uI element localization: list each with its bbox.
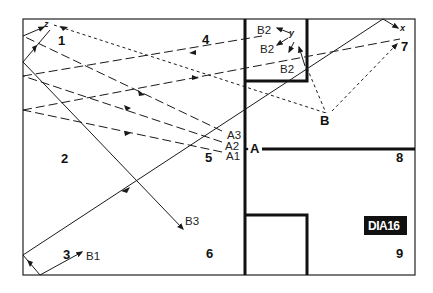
axis-y: y [288,28,295,38]
zone-5: 5 [205,150,212,165]
zone-1: 1 [58,33,65,48]
label-b2-mid: B2 [260,43,274,55]
label-b2-top: B2 [257,24,271,36]
label-b3: B3 [185,215,199,227]
ray-y-up [299,47,305,66]
ray-corner-to-b1 [23,255,40,275]
label-a1: A1 [226,150,240,162]
ray-y-b2-low [289,42,294,52]
zone-7: 7 [401,39,408,54]
ray-reflect-to-7 [23,39,400,110]
ray-y-b2-mid [277,38,288,45]
ray-x-out [383,19,398,28]
arrow-icon [124,105,131,111]
top-room-wall [245,19,307,81]
zone-3: 3 [63,247,70,262]
zone-2: 2 [61,151,68,166]
zone-4: 4 [202,32,210,47]
dia-badge-label: DIA16 [368,219,400,233]
point-b: B [320,113,329,128]
label-b1: B1 [86,250,100,262]
axis-z: z [43,19,49,29]
ray-b-to-7 [332,44,397,111]
b-rays [54,25,397,113]
arrow-icon [60,26,68,31]
arrow-icon [138,90,145,96]
label-b2-low: B2 [280,63,294,75]
outer-frame [23,19,415,275]
ray-a2 [23,76,222,142]
point-a-dot [246,148,249,151]
arrow-icon [32,45,37,53]
solid-rays [23,19,398,275]
ray-b2-to-b [307,68,326,113]
zone-9: 9 [396,246,403,261]
zone-8: 8 [396,150,403,165]
bottom-room-wall [245,215,307,275]
ray-b1 [40,252,82,275]
walls [245,19,415,275]
ray-x-to-corner [23,19,383,255]
ray-b3 [23,62,183,229]
axis-x: x [399,23,406,33]
reflection-diagram: 1 2 3 4 5 6 7 8 9 A B A3 A2 A1 B1 B2 B2 … [0,0,433,293]
point-a: A [250,141,260,156]
a-rays [23,36,400,152]
arrow-icon [189,50,196,55]
ray-z-left [23,27,44,36]
a-ray-arrows [124,50,199,136]
zone-6: 6 [206,246,213,261]
